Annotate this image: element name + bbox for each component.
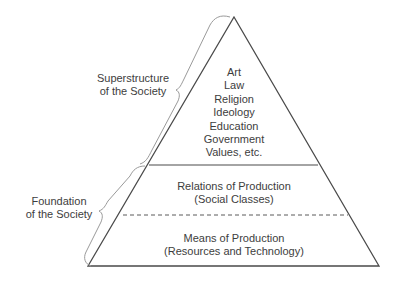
foundation-label-line1: Foundation: [20, 195, 98, 208]
foundation-label: Foundation of the Society: [20, 195, 98, 221]
relations-of-production-tier: Relations of Production (Social Classes): [164, 180, 304, 206]
means-line2: (Resources and Technology): [154, 245, 314, 258]
foundation-label-line2: of the Society: [20, 208, 98, 221]
relations-line2: (Social Classes): [164, 193, 304, 206]
means-line1: Means of Production: [154, 232, 314, 245]
tier-item-law: Law: [194, 79, 274, 92]
tier-item-art: Art: [194, 66, 274, 79]
superstructure-label-line2: of the Society: [92, 85, 174, 98]
superstructure-tier-items: Art Law Religion Ideology Education Gove…: [194, 66, 274, 160]
tier-item-ideology: Ideology: [194, 106, 274, 119]
relations-line1: Relations of Production: [164, 180, 304, 193]
tier-item-government: Government: [194, 133, 274, 146]
superstructure-label-line1: Superstructure: [92, 72, 174, 85]
means-of-production-tier: Means of Production (Resources and Techn…: [154, 232, 314, 258]
tier-item-religion: Religion: [194, 93, 274, 106]
tier-item-values: Values, etc.: [194, 146, 274, 159]
tier-item-education: Education: [194, 120, 274, 133]
superstructure-label: Superstructure of the Society: [92, 72, 174, 98]
